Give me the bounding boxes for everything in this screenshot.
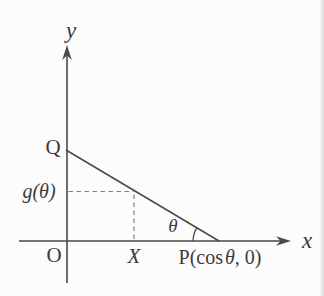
g-theta-label: g(θ)	[22, 181, 55, 201]
figure-canvas: y x O Q g(θ) X θ P(cosθ, 0)	[0, 0, 324, 296]
y-axis-label: y	[66, 19, 76, 42]
p-point-label-suffix: , 0)	[235, 246, 262, 268]
x-point-label: X	[128, 246, 141, 267]
theta-angle-label: θ	[168, 216, 177, 235]
angle-arc	[193, 228, 197, 241]
segment-q-to-p	[66, 150, 219, 241]
p-point-label: P(cosθ, 0)	[179, 247, 262, 267]
p-point-label-theta: θ	[225, 246, 235, 268]
origin-label: O	[46, 245, 61, 266]
p-point-label-prefix: P(cos	[179, 246, 223, 268]
q-point-label: Q	[45, 137, 60, 158]
x-axis-label: x	[302, 229, 312, 252]
